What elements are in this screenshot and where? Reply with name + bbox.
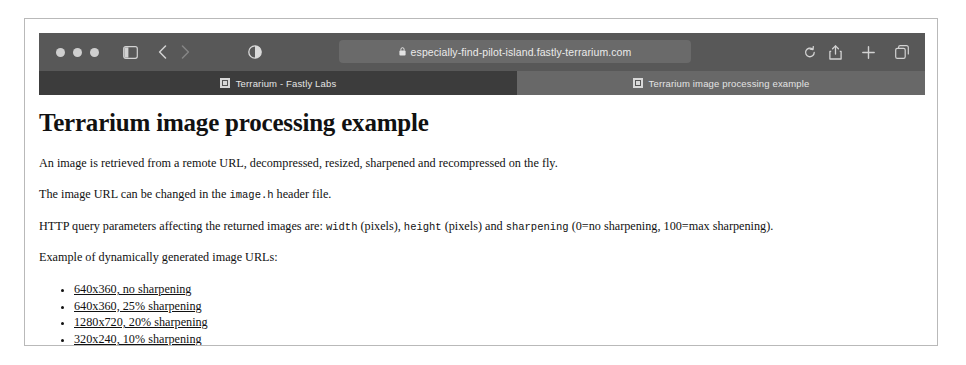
paragraph-text: header file. [274,187,332,201]
tab-terrarium-fastly-labs[interactable]: Terrarium - Fastly Labs [39,71,517,95]
browser-window-frame: especially-find-pilot-island.fastly-terr… [24,18,938,346]
window-traffic-lights[interactable] [56,48,99,57]
address-bar[interactable]: especially-find-pilot-island.fastly-terr… [339,40,691,63]
inline-code-sharpening: sharpening [506,221,569,233]
page-content: Terrarium image processing example An im… [39,109,923,346]
tab-strip: Terrarium - Fastly Labs Terrarium image … [39,71,925,95]
close-window-button[interactable] [56,48,65,57]
inline-code-image-h: image.h [229,189,273,201]
tab-favicon-icon [633,78,643,88]
toolbar-right-actions [829,33,909,71]
sidebar-icon[interactable] [123,33,138,71]
forward-chevron-icon[interactable] [181,33,190,71]
example-link[interactable]: 320x240, 10% sharpening [74,332,202,346]
plus-icon[interactable] [862,33,875,71]
tab-favicon-icon [220,78,230,88]
paragraph-text: (0=no sharpening, 100=max sharpening). [569,219,774,233]
minimize-window-button[interactable] [73,48,82,57]
share-icon[interactable] [829,33,842,71]
paragraph-image-url: The image URL can be changed in the imag… [39,187,923,202]
list-item: 1280x720, 20% sharpening [74,314,923,331]
address-bar-content: especially-find-pilot-island.fastly-terr… [399,46,632,58]
paragraph-examples-lead: Example of dynamically generated image U… [39,250,923,265]
list-item: 640x360, 25% sharpening [74,298,923,315]
address-bar-url: especially-find-pilot-island.fastly-terr… [411,46,632,58]
tab-title: Terrarium - Fastly Labs [236,78,337,89]
page-title: Terrarium image processing example [39,109,923,137]
list-item: 320x240, 10% sharpening [74,331,923,346]
example-link[interactable]: 640x360, no sharpening [74,282,191,296]
tab-overview-icon[interactable] [895,33,909,71]
paragraph-text: HTTP query parameters affecting the retu… [39,219,326,233]
reader-contrast-icon[interactable] [248,33,262,71]
browser-chrome: especially-find-pilot-island.fastly-terr… [39,33,925,95]
lock-icon [399,47,406,56]
example-link[interactable]: 640x360, 25% sharpening [74,299,202,313]
browser-toolbar: especially-find-pilot-island.fastly-terr… [39,33,925,71]
paragraph-query-params: HTTP query parameters affecting the retu… [39,219,923,234]
example-link[interactable]: 1280x720, 20% sharpening [74,315,208,329]
tab-terrarium-image-processing-example[interactable]: Terrarium image processing example [517,71,925,95]
inline-code-height: height [404,221,442,233]
inline-code-width: width [326,221,358,233]
paragraph-text: (pixels) and [442,219,506,233]
paragraph-intro: An image is retrieved from a remote URL,… [39,156,923,171]
paragraph-text: (pixels), [357,219,403,233]
list-item: 640x360, no sharpening [74,281,923,298]
tab-title: Terrarium image processing example [649,78,810,89]
back-chevron-icon[interactable] [158,33,167,71]
example-url-list: 640x360, no sharpening 640x360, 25% shar… [39,281,923,346]
paragraph-text: The image URL can be changed in the [39,187,229,201]
maximize-window-button[interactable] [90,48,99,57]
